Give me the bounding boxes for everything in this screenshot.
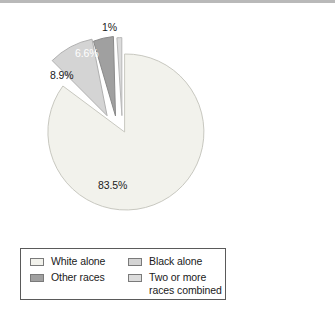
- legend-grid: White alone Black alone Other races Two …: [30, 255, 225, 297]
- legend-label-white-alone: White alone: [51, 255, 105, 268]
- legend-swatch-black-alone: [128, 258, 142, 266]
- legend-swatch-white-alone: [30, 258, 44, 266]
- legend-item-white-alone[interactable]: White alone: [30, 255, 128, 268]
- pie-label-two-or-more-races: 1%: [102, 21, 117, 33]
- legend-item-two-or-more-races[interactable]: Two or more races combined: [128, 271, 236, 297]
- pie-label-black-alone: 8.9%: [50, 69, 74, 81]
- legend-item-black-alone[interactable]: Black alone: [128, 255, 236, 268]
- pie-slice-two-or-more-races: [117, 38, 122, 116]
- pie-chart-figure: 83.5% 8.9% 6.6% 1%: [0, 3, 335, 243]
- legend-label-other-races: Other races: [51, 271, 105, 284]
- pie-label-other-races: 6.6%: [75, 47, 99, 59]
- legend-swatch-two-or-more-races: [128, 274, 142, 282]
- chart-legend: White alone Black alone Other races Two …: [20, 248, 226, 300]
- pie-label-white-alone: 83.5%: [98, 179, 127, 191]
- legend-label-two-or-more-races-line1: Two or more: [149, 271, 206, 283]
- legend-swatch-other-races: [30, 274, 44, 282]
- legend-label-two-or-more-races: Two or more races combined: [149, 271, 222, 297]
- legend-label-black-alone: Black alone: [149, 255, 202, 268]
- legend-item-other-races[interactable]: Other races: [30, 271, 128, 297]
- pie-chart-svg: [0, 3, 335, 243]
- legend-label-two-or-more-races-line2: races combined: [149, 284, 222, 296]
